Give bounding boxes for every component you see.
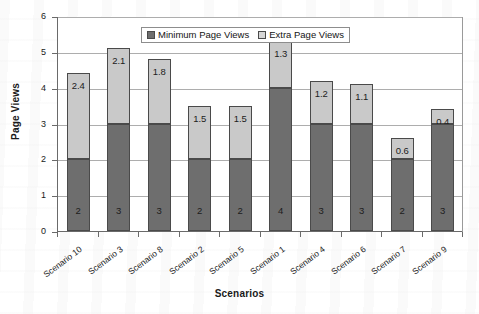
gridline bbox=[58, 17, 462, 18]
bar-segment-minimum[interactable]: 3 bbox=[310, 124, 333, 232]
bar-group[interactable]: 2.13 bbox=[107, 48, 130, 231]
bar-value-label-extra: 1.3 bbox=[270, 49, 291, 59]
bar-segment-minimum[interactable]: 2 bbox=[67, 159, 90, 231]
bar-segment-extra[interactable]: 1.2 bbox=[310, 81, 333, 124]
x-tick-mark bbox=[219, 232, 220, 237]
legend-label-minimum: Minimum Page Views bbox=[158, 30, 249, 40]
bar-value-label-minimum: 3 bbox=[108, 206, 129, 216]
x-tick-mark bbox=[138, 232, 139, 237]
bar-value-label-minimum: 3 bbox=[351, 206, 372, 216]
bar-value-label-extra: 1.5 bbox=[189, 114, 210, 124]
bar-segment-extra[interactable]: 1.8 bbox=[148, 59, 171, 124]
bar-segment-extra[interactable]: 1.1 bbox=[350, 84, 373, 123]
legend-swatch-minimum-icon bbox=[147, 31, 155, 39]
x-tick-mark bbox=[341, 232, 342, 237]
bar-value-label-minimum: 2 bbox=[230, 206, 251, 216]
bar-value-label-minimum: 2 bbox=[392, 206, 413, 216]
y-tick-label: 2 bbox=[0, 155, 46, 164]
bar-segment-extra[interactable]: 0.4 bbox=[431, 109, 454, 123]
bar-value-label-extra: 2.1 bbox=[108, 56, 129, 66]
bar-value-label-extra: 0.6 bbox=[392, 146, 413, 156]
x-tick-mark bbox=[462, 232, 463, 237]
bar-segment-minimum[interactable]: 3 bbox=[350, 124, 373, 232]
bar-segment-extra[interactable]: 1.3 bbox=[269, 41, 292, 88]
bar-segment-minimum[interactable]: 2 bbox=[229, 159, 252, 231]
y-tick-label: 3 bbox=[0, 120, 46, 129]
bar-value-label-extra: 1.1 bbox=[351, 92, 372, 102]
bar-value-label-minimum: 2 bbox=[68, 206, 89, 216]
y-tick-label: 0 bbox=[0, 227, 46, 236]
chart-legend: Minimum Page Views Extra Page Views bbox=[141, 27, 350, 43]
x-tick-mark bbox=[179, 232, 180, 237]
bar-group[interactable]: 0.43 bbox=[431, 109, 454, 231]
legend-label-extra: Extra Page Views bbox=[269, 30, 344, 40]
y-tick-label: 1 bbox=[0, 191, 46, 200]
chart-container: Page Views 0123456 2.422.131.831.521.521… bbox=[0, 0, 479, 314]
bar-segment-extra[interactable]: 1.5 bbox=[188, 106, 211, 160]
bar-value-label-extra: 2.4 bbox=[68, 81, 89, 91]
bar-group[interactable]: 1.13 bbox=[350, 84, 373, 231]
x-tick-mark bbox=[260, 232, 261, 237]
bar-segment-minimum[interactable]: 2 bbox=[188, 159, 211, 231]
legend-item-minimum[interactable]: Minimum Page Views bbox=[147, 30, 249, 40]
bar-group[interactable]: 2.42 bbox=[67, 73, 90, 231]
bar-group[interactable]: 1.34 bbox=[269, 41, 292, 231]
y-tick-label: 5 bbox=[0, 48, 46, 57]
bar-value-label-minimum: 2 bbox=[189, 206, 210, 216]
y-axis-title: Page Views bbox=[10, 67, 21, 157]
x-tick-mark bbox=[381, 232, 382, 237]
bar-group[interactable]: 0.62 bbox=[391, 138, 414, 231]
bar-segment-extra[interactable]: 0.6 bbox=[391, 138, 414, 160]
bar-segment-minimum[interactable]: 4 bbox=[269, 88, 292, 231]
bar-value-label-extra: 1.8 bbox=[149, 67, 170, 77]
x-tick-mark bbox=[57, 232, 58, 237]
bar-segment-minimum[interactable]: 3 bbox=[107, 124, 130, 232]
x-tick-mark bbox=[98, 232, 99, 237]
bar-group[interactable]: 1.83 bbox=[148, 59, 171, 231]
bar-segment-minimum[interactable]: 3 bbox=[148, 124, 171, 232]
bar-group[interactable]: 1.23 bbox=[310, 81, 333, 232]
legend-swatch-extra-icon bbox=[258, 31, 266, 39]
bar-segment-extra[interactable]: 1.5 bbox=[229, 106, 252, 160]
bar-value-label-minimum: 3 bbox=[432, 206, 453, 216]
x-tick-mark bbox=[422, 232, 423, 237]
bar-group[interactable]: 1.52 bbox=[188, 106, 211, 231]
bar-segment-extra[interactable]: 2.1 bbox=[107, 48, 130, 123]
legend-item-extra[interactable]: Extra Page Views bbox=[258, 30, 344, 40]
x-axis-title: Scenarios bbox=[0, 288, 479, 299]
bar-segment-minimum[interactable]: 2 bbox=[391, 159, 414, 231]
y-tick-label: 4 bbox=[0, 84, 46, 93]
bar-value-label-extra: 1.5 bbox=[230, 114, 251, 124]
x-tick-mark bbox=[300, 232, 301, 237]
bar-group[interactable]: 1.52 bbox=[229, 106, 252, 231]
plot-area: 2.422.131.831.521.521.341.231.130.620.43 bbox=[57, 17, 462, 232]
bar-value-label-minimum: 3 bbox=[311, 206, 332, 216]
plot-frame-right bbox=[462, 17, 463, 233]
bar-value-label-extra: 1.2 bbox=[311, 89, 332, 99]
bar-segment-minimum[interactable]: 3 bbox=[431, 124, 454, 232]
bar-value-label-minimum: 3 bbox=[149, 206, 170, 216]
y-tick-label: 6 bbox=[0, 12, 46, 21]
bar-segment-extra[interactable]: 2.4 bbox=[67, 73, 90, 159]
bar-value-label-minimum: 4 bbox=[270, 206, 291, 216]
